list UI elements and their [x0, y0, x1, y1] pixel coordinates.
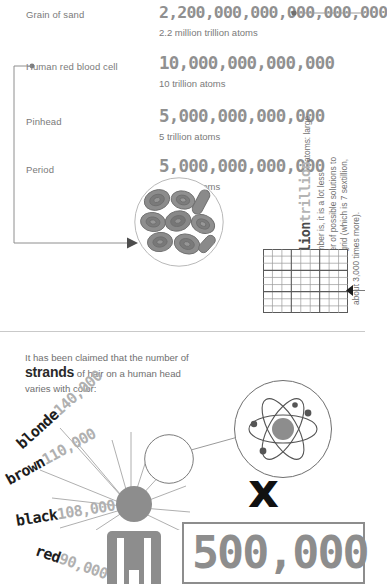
caption-pinhead: 5 trillion atoms: [159, 131, 220, 142]
row-label-grain-of-sand: Grain of sand: [26, 9, 84, 20]
person-icon: [105, 484, 163, 584]
side-note-text-1: atoms: large: [302, 116, 312, 162]
hair-claim-strong: strands: [25, 364, 74, 380]
big-number-human-red-blood-cell: 10,000,000,000,000: [159, 53, 334, 73]
multiplier-symbol: x: [248, 466, 279, 514]
blood-cell-connector: [4, 60, 144, 252]
section-divider: [0, 331, 365, 332]
grain-of-sand-leader-line: [290, 5, 365, 21]
blood-cells-icon: [133, 176, 225, 268]
hair-label-red: red90,000: [33, 541, 110, 582]
caption-human-red-blood-cell: 10 trillion atoms: [159, 78, 226, 89]
sudoku-pointer-arrow: [346, 284, 365, 297]
hair-count-red: 90,000: [57, 550, 110, 583]
side-note-line-5: about 3,000 times more).: [351, 116, 362, 305]
side-note-headline-light: trillion: [297, 162, 313, 222]
hair-claim-line-1: It has been claimed that the number of: [25, 352, 189, 363]
strand-count-value: 500,000: [192, 530, 368, 575]
caption-grain-of-sand: 2.2 million trillion atoms: [159, 27, 258, 38]
sudoku-grid-icon: [263, 249, 348, 313]
